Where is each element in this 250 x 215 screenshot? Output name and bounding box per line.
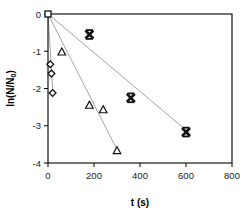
point-triangle-series-2 <box>99 106 107 113</box>
y-tick-label--3: -3 <box>33 120 41 131</box>
trendline-trend-diamond <box>48 14 53 96</box>
trendline-trend-steep <box>48 14 118 152</box>
point-diamond-series-2 <box>49 90 56 97</box>
point-cross-series-1 <box>127 93 135 102</box>
y-tick-label--4: -4 <box>33 158 41 169</box>
plot-frame <box>48 14 232 163</box>
y-tick-label--1: -1 <box>33 46 41 57</box>
x-tick-label-0: 0 <box>45 170 50 181</box>
x-tick-label-600: 600 <box>178 170 194 181</box>
x-tick-label-800: 800 <box>224 170 240 181</box>
scatter-plot: 02004006008000-1-2-3-4t (s)ln(N/N0) <box>0 0 250 215</box>
point-origin-0 <box>45 11 51 17</box>
trendline-trend-shallow <box>48 14 191 134</box>
point-triangle-series-3 <box>113 147 121 154</box>
x-tick-label-400: 400 <box>132 170 148 181</box>
x-axis-title: t (s) <box>131 197 149 208</box>
point-triangle-series-1 <box>86 101 94 108</box>
point-cross-series-0 <box>85 30 93 39</box>
x-tick-label-200: 200 <box>86 170 102 181</box>
y-axis-title: ln(N/N0) <box>5 70 17 107</box>
chart-container: 02004006008000-1-2-3-4t (s)ln(N/N0) <box>0 0 250 215</box>
point-diamond-series-1 <box>48 70 55 77</box>
point-triangle-series-0 <box>58 48 66 55</box>
y-tick-label-0: 0 <box>36 9 41 20</box>
y-tick-label--2: -2 <box>33 83 41 94</box>
